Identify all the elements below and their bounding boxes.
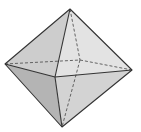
octahedron-diagram [0,0,141,132]
face-bottom-right [55,70,132,127]
